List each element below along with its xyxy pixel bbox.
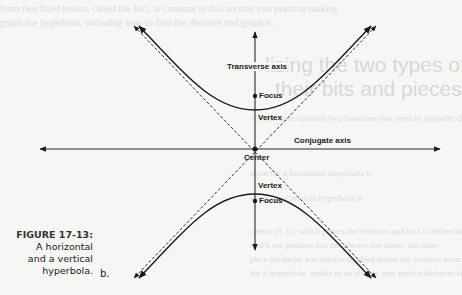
conjugate-axis-label: Conjugate axis — [294, 136, 351, 145]
center-label: Center — [244, 153, 269, 162]
focus-top-label: Focus — [259, 91, 283, 100]
part-label: b. — [100, 268, 110, 279]
transverse-axis-label: Transverse axis — [226, 62, 288, 71]
caption-line: A horizontal — [0, 241, 93, 253]
caption-line: hyperbola. — [0, 265, 93, 277]
center-point — [253, 147, 258, 152]
focus-top-point — [253, 94, 257, 98]
vertex-top-label: Vertex — [258, 113, 282, 122]
caption-line: and a vertical — [0, 253, 93, 265]
vertex-bottom-label: Vertex — [258, 181, 282, 190]
figure-number: FIGURE 17-13: — [0, 229, 93, 241]
figure-caption: FIGURE 17-13: A horizontal and a vertica… — [0, 229, 93, 277]
focus-bottom-label: Focus — [259, 196, 283, 205]
focus-bottom-point — [253, 199, 257, 203]
